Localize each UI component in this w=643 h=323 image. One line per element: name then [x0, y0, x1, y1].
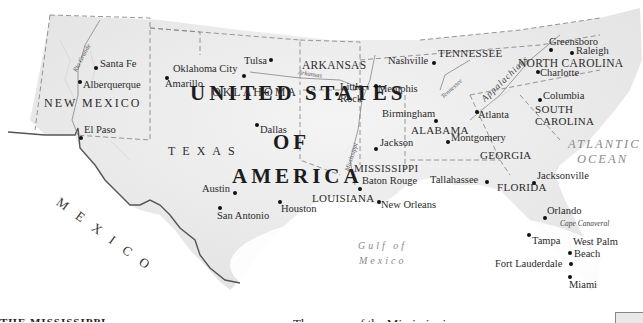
feature-label-cape-canaveral: Cape Canaveral	[560, 220, 609, 228]
city-label-raleigh: Raleigh	[576, 46, 609, 57]
city-label-montgomery: Montgomery	[451, 133, 506, 144]
city-dot-austin	[233, 191, 237, 195]
city-dot-oklahoma-city	[242, 74, 246, 78]
city-label-jackson: Jackson	[380, 138, 413, 149]
city-dot-columbia	[538, 98, 542, 102]
city-dot-alberquerque	[78, 80, 82, 84]
state-label-oklahoma: OKLAHOMA	[212, 86, 298, 98]
city-label-charlotte: Charlotte	[540, 68, 579, 79]
city-dot-west-palm-beach	[568, 251, 572, 255]
caption-left-text: THE MISSISSIPPI RIVER	[0, 316, 140, 322]
city-dot-nashville	[432, 61, 436, 65]
city-dot-el-paso	[79, 136, 83, 140]
city-label-el-paso: El Paso	[84, 125, 116, 136]
city-dot-fort-lauderdale	[569, 262, 573, 266]
city-label-memphis: Memphis	[378, 84, 418, 95]
city-label-tampa: Tampa	[532, 236, 560, 247]
city-dot-orlando	[543, 216, 547, 220]
city-dot-jacksonville	[532, 181, 536, 185]
caption-center: The course of the Mississippi and	[293, 316, 463, 322]
city-label-new-orleans: New Orleans	[381, 200, 436, 211]
city-label-austin: Austin	[202, 184, 230, 195]
city-label-little-rock-2: Rock	[340, 94, 362, 105]
inset-map-corner	[615, 312, 643, 323]
state-label-texas: TEXAS	[168, 145, 242, 157]
city-label-jacksonville: Jacksonville	[537, 171, 589, 182]
city-label-nashville: Nashville	[388, 56, 428, 67]
city-dot-greensboro	[549, 48, 553, 52]
city-label-houston: Houston	[281, 204, 317, 215]
city-label-amarillo: Amarillo	[165, 79, 203, 90]
city-label-tulsa: Tulsa	[244, 56, 267, 67]
water-label-atlantic-1: ATLANTIC	[568, 138, 641, 151]
city-label-tallahassee: Tallahassee	[430, 175, 478, 186]
city-label-west-palm-beach-2: Beach	[574, 249, 600, 260]
city-label-fort-lauderdale: Fort Lauderdale	[495, 259, 562, 270]
city-dot-birmingham	[434, 119, 438, 123]
city-label-west-palm-beach-1: West Palm	[573, 237, 618, 248]
city-label-baton-rouge: Baton Rouge	[362, 176, 417, 187]
state-label-mississippi: MISSISSIPPI	[354, 163, 418, 174]
city-label-oklahoma-city: Oklahoma City	[173, 64, 237, 75]
state-label-tennessee: TENNESSEE	[438, 48, 502, 59]
city-dot-baton-rouge	[358, 187, 362, 191]
city-dot-montgomery	[446, 140, 450, 144]
city-label-columbia: Columbia	[543, 91, 584, 102]
city-label-miami: Miami	[569, 280, 597, 291]
state-label-south-carolina-1: SOUTH	[535, 104, 573, 115]
city-dot-santa-fe	[94, 66, 98, 70]
state-label-louisiana: LOUISIANA	[312, 193, 375, 204]
city-dot-tallahassee	[485, 180, 489, 184]
city-label-orlando: Orlando	[547, 206, 581, 217]
state-label-south-carolina-2: CAROLINA	[535, 116, 594, 127]
city-dot-tulsa	[269, 58, 273, 62]
city-label-alberquerque: Alberquerque	[83, 80, 141, 91]
state-label-florida: FLORIDA	[497, 182, 547, 193]
city-dot-little-rock	[335, 92, 339, 96]
city-label-atlanta: Atlanta	[478, 110, 509, 121]
city-label-little-rock-1: Little	[340, 82, 363, 93]
water-label-gulf-2: Mexico	[359, 256, 406, 266]
city-dot-jackson	[374, 147, 378, 151]
water-label-gulf-1: Gulf of	[358, 241, 407, 251]
water-label-atlantic-2: OCEAN	[577, 153, 628, 166]
city-label-santa-fe: Santa Fe	[100, 59, 136, 70]
city-label-san-antonio: San Antonio	[217, 211, 269, 222]
caption-center-text: The course of the Mississippi and	[293, 316, 463, 322]
state-label-georgia: GEORGIA	[480, 150, 532, 161]
caption-left: THE MISSISSIPPI RIVER	[0, 316, 140, 322]
city-dot-dallas	[255, 123, 259, 127]
city-label-birmingham: Birmingham	[382, 109, 435, 120]
state-label-new-mexico: NEW MEXICO	[44, 97, 141, 109]
city-dot-tampa	[527, 233, 531, 237]
city-label-dallas: Dallas	[260, 125, 287, 136]
city-dot-raleigh	[570, 51, 574, 55]
